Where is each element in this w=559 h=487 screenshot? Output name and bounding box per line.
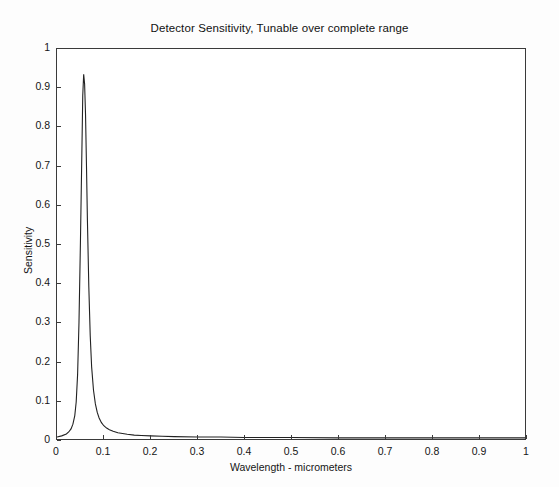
- x-tick-label: 0.5: [271, 445, 311, 457]
- x-tick-mark: [103, 435, 104, 439]
- x-tick-label: 0.9: [459, 445, 499, 457]
- y-tick-label: 0.4: [6, 276, 50, 288]
- x-tick-label: 0.4: [224, 445, 264, 457]
- y-tick-label: 0.2: [6, 355, 50, 367]
- x-tick-label: 0.6: [318, 445, 358, 457]
- x-tick-label: 0.2: [130, 445, 170, 457]
- y-tick-mark: [57, 283, 61, 284]
- y-tick-label: 0.8: [6, 119, 50, 131]
- x-tick-label: 1: [506, 445, 546, 457]
- y-tick-mark: [57, 401, 61, 402]
- y-tick-mark: [57, 244, 61, 245]
- y-tick-mark: [57, 126, 61, 127]
- y-tick-mark: [57, 48, 61, 49]
- x-tick-mark: [432, 435, 433, 439]
- x-tick-label: 0.1: [83, 445, 123, 457]
- chart-figure: Detector Sensitivity, Tunable over compl…: [0, 0, 559, 487]
- y-tick-mark: [57, 440, 61, 441]
- y-axis-label: Sensitivity: [22, 227, 34, 274]
- x-tick-mark: [197, 435, 198, 439]
- chart-title: Detector Sensitivity, Tunable over compl…: [0, 22, 559, 34]
- y-tick-label: 0: [6, 433, 50, 445]
- y-tick-label: 0.6: [6, 198, 50, 210]
- y-tick-mark: [57, 362, 61, 363]
- y-tick-label: 0.3: [6, 315, 50, 327]
- y-tick-mark: [57, 87, 61, 88]
- y-tick-label: 0.5: [6, 237, 50, 249]
- x-tick-label: 0: [36, 445, 76, 457]
- x-tick-label: 0.3: [177, 445, 217, 457]
- x-tick-mark: [244, 435, 245, 439]
- y-tick-mark: [57, 322, 61, 323]
- plot-area: [56, 48, 526, 440]
- y-tick-label: 0.7: [6, 159, 50, 171]
- y-tick-mark: [57, 166, 61, 167]
- x-tick-label: 0.8: [412, 445, 452, 457]
- x-tick-mark: [150, 435, 151, 439]
- x-tick-mark: [385, 435, 386, 439]
- x-tick-mark: [338, 435, 339, 439]
- x-tick-mark: [291, 435, 292, 439]
- x-tick-mark: [56, 435, 57, 439]
- sensitivity-curve: [57, 49, 525, 439]
- x-tick-label: 0.7: [365, 445, 405, 457]
- y-tick-mark: [57, 205, 61, 206]
- x-tick-mark: [479, 435, 480, 439]
- y-tick-label: 0.1: [6, 394, 50, 406]
- y-tick-label: 1: [6, 41, 50, 53]
- x-axis-label: Wavelength - micrometers: [56, 461, 526, 473]
- y-tick-label: 0.9: [6, 80, 50, 92]
- x-tick-mark: [526, 435, 527, 439]
